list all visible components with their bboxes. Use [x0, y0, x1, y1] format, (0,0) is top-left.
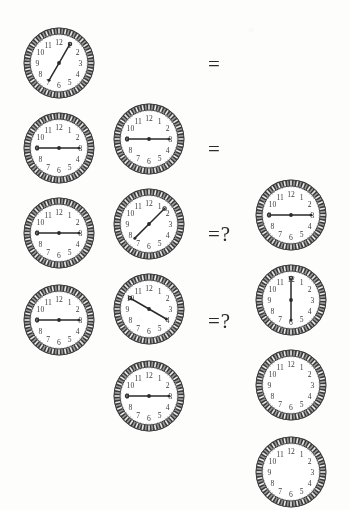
clock-numeral-2: 2 — [76, 218, 80, 227]
clock-numeral-12: 12 — [55, 295, 63, 304]
clock-numeral-11: 11 — [135, 374, 143, 383]
clock-numeral-11: 11 — [45, 126, 53, 135]
clock-numeral-8: 8 — [38, 327, 42, 336]
clock-numeral-4: 4 — [76, 240, 80, 249]
clock-numeral-4: 4 — [76, 327, 80, 336]
clock-numeral-6: 6 — [57, 166, 61, 175]
clock-numeral-2: 2 — [76, 305, 80, 314]
equals-question-operator-row3: =? — [208, 224, 231, 245]
clock-numeral-4: 4 — [166, 403, 170, 412]
clock-numeral-10: 10 — [37, 133, 45, 142]
clock-r4-c2-operand-b: 123456789101112 — [111, 358, 349, 434]
clock-numeral-5: 5 — [158, 411, 162, 420]
clock-numeral-5: 5 — [300, 487, 304, 496]
clock-numeral-4: 4 — [308, 479, 312, 488]
clock-numeral-10: 10 — [37, 305, 45, 314]
clock-numeral-6: 6 — [57, 338, 61, 347]
clock-r2-c1-operand-a: 123456789101112 — [21, 110, 349, 186]
equals-question-operator-row4: =? — [208, 311, 231, 332]
clock-numeral-2: 2 — [76, 133, 80, 142]
clock-numeral-10: 10 — [127, 381, 135, 390]
clock-numeral-4: 4 — [76, 155, 80, 164]
clock-numeral-1: 1 — [68, 298, 72, 307]
clock-numeral-1: 1 — [68, 126, 72, 135]
clock-numeral-6: 6 — [289, 490, 293, 499]
clock-numeral-5: 5 — [68, 248, 72, 257]
clock-numeral-12: 12 — [287, 447, 295, 456]
clock-numeral-11: 11 — [277, 450, 285, 459]
clock-numeral-12: 12 — [55, 208, 63, 217]
clock-numeral-3: 3 — [311, 468, 315, 477]
clock-numeral-6: 6 — [57, 251, 61, 260]
clock-numeral-11: 11 — [45, 211, 53, 220]
clock-numeral-7: 7 — [278, 487, 282, 496]
clock-numeral-10: 10 — [37, 218, 45, 227]
clock-numeral-9: 9 — [268, 468, 272, 477]
clock-numeral-2: 2 — [308, 457, 312, 466]
clock-numeral-7: 7 — [136, 411, 140, 420]
clock-numeral-2: 2 — [166, 381, 170, 390]
clock-numeral-11: 11 — [45, 298, 53, 307]
clock-numeral-7: 7 — [46, 248, 50, 257]
clock-numeral-8: 8 — [270, 479, 274, 488]
clock-numeral-1: 1 — [300, 450, 304, 459]
clock-numeral-12: 12 — [55, 123, 63, 132]
clock-numeral-5: 5 — [68, 335, 72, 344]
clock-numeral-8: 8 — [128, 403, 132, 412]
clock-numeral-6: 6 — [147, 414, 151, 423]
clock-numeral-10: 10 — [269, 457, 277, 466]
clock-numeral-8: 8 — [38, 155, 42, 164]
clock-numeral-1: 1 — [158, 374, 162, 383]
clock-numeral-7: 7 — [46, 335, 50, 344]
clock-numeral-5: 5 — [68, 163, 72, 172]
puzzle-row-4: 1234567891011121234567891011121234567891… — [0, 0, 349, 88]
clock-numeral-8: 8 — [38, 240, 42, 249]
clock-numeral-1: 1 — [68, 211, 72, 220]
clock-numeral-7: 7 — [46, 163, 50, 172]
equals-operator-row2: = — [208, 139, 221, 160]
clock-r4-c3-result[interactable]: 123456789101112 — [253, 434, 349, 510]
clock-numeral-12: 12 — [145, 371, 153, 380]
clock-r4-c1-operand-a: 123456789101112 — [21, 282, 349, 358]
clock-r3-c1-operand-a: 123456789101112 — [21, 195, 349, 271]
